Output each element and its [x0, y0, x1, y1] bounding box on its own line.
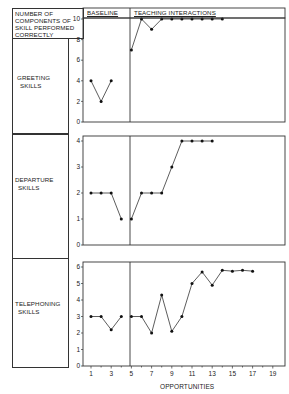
chart-svg: 0246810012340123456135791113151719 — [0, 0, 289, 394]
panel-1: 0246810 — [73, 8, 285, 125]
svg-text:3: 3 — [76, 313, 80, 320]
svg-text:0: 0 — [76, 362, 80, 369]
svg-text:11: 11 — [189, 370, 196, 377]
svg-text:13: 13 — [209, 370, 217, 377]
svg-text:2: 2 — [76, 189, 80, 196]
svg-text:19: 19 — [269, 370, 277, 377]
svg-text:17: 17 — [249, 370, 257, 377]
svg-text:3: 3 — [109, 370, 113, 377]
svg-text:9: 9 — [170, 370, 174, 377]
svg-text:5: 5 — [130, 370, 134, 377]
svg-text:1: 1 — [76, 346, 80, 353]
svg-text:10: 10 — [73, 15, 81, 22]
svg-text:6: 6 — [76, 56, 80, 63]
svg-text:4: 4 — [76, 137, 80, 144]
svg-text:4: 4 — [76, 77, 80, 84]
svg-text:15: 15 — [229, 370, 237, 377]
svg-text:2: 2 — [76, 329, 80, 336]
svg-text:1: 1 — [89, 370, 93, 377]
panel-3: 0123456 — [76, 262, 285, 369]
svg-text:7: 7 — [150, 370, 154, 377]
svg-text:0: 0 — [76, 118, 80, 125]
svg-text:0: 0 — [76, 241, 80, 248]
svg-text:4: 4 — [76, 296, 80, 303]
svg-text:2: 2 — [76, 98, 80, 105]
svg-text:8: 8 — [76, 36, 80, 43]
svg-text:3: 3 — [76, 163, 80, 170]
svg-text:6: 6 — [76, 263, 80, 270]
svg-text:5: 5 — [76, 280, 80, 287]
svg-text:1: 1 — [76, 215, 80, 222]
panel-2: 01234 — [76, 136, 285, 248]
